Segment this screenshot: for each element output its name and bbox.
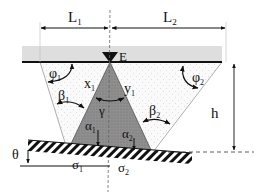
label-E: E bbox=[119, 49, 127, 64]
label-gamma: γ bbox=[98, 103, 105, 118]
label-h: h bbox=[211, 105, 219, 121]
label-L1: L1 bbox=[68, 9, 82, 27]
label-L2: L2 bbox=[163, 9, 177, 27]
label-sigma2: σ2 bbox=[118, 160, 129, 177]
geometry-diagram: L1 L2 E φ1 φ2 β1 β2 x1 y1 γ α1 α2 θ h σ1… bbox=[0, 0, 254, 192]
label-sigma1: σ1 bbox=[72, 157, 83, 174]
label-theta: θ bbox=[12, 147, 19, 162]
